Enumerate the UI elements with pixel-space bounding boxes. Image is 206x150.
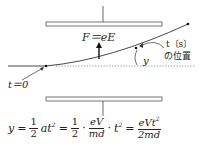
- formula-at2: at2: [41, 121, 56, 135]
- t-pointer-arrow: [140, 42, 164, 48]
- top-plate: [46, 22, 162, 26]
- fraction-result: eVt2 2md: [138, 116, 161, 140]
- fraction-half: 1 2: [29, 117, 37, 139]
- formula-eq1: =: [17, 122, 26, 135]
- fraction-half-2: 1 2: [71, 117, 79, 139]
- formula-eq3: =: [125, 122, 134, 135]
- position-label: の位置: [164, 52, 191, 61]
- fraction-ev-md: eV md: [89, 117, 105, 139]
- formula-dot2: ·: [108, 122, 112, 135]
- formula-eq2: =: [59, 122, 68, 135]
- displacement-formula: y = 1 2 at2 = 1 2 · eV md · t2 = eVt2 2m…: [8, 116, 161, 140]
- formula-t2: t2: [114, 121, 122, 135]
- start-point: [45, 65, 48, 68]
- displacement-label: y: [143, 56, 149, 66]
- bottom-plate: [46, 97, 162, 101]
- formula-dot1: ·: [82, 122, 86, 135]
- formula-lhs: y: [8, 122, 14, 135]
- start-time-label: t＝0: [8, 80, 28, 90]
- time-label: t〔s〕: [166, 40, 192, 49]
- y-bracket: [135, 50, 137, 65]
- end-point: [187, 23, 190, 26]
- position-point: [135, 47, 138, 50]
- force-label: F＝eE: [82, 32, 115, 43]
